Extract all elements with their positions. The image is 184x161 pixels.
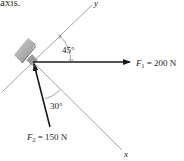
- y-axis: [2, 5, 92, 92]
- force-diagram: y x 45° 30° F1 = 200 N F2 = 150 N: [0, 0, 184, 161]
- force-f2-label: F2 = 150 N: [26, 132, 68, 143]
- force-f2-arrow: [34, 64, 50, 127]
- x-axis-label: x: [123, 149, 128, 159]
- y-axis-label: y: [93, 0, 98, 8]
- angle-30-arc: [45, 90, 60, 99]
- force-f1-label: F1 = 200 N: [135, 58, 177, 69]
- angle-45-label: 45°: [62, 45, 75, 55]
- angle-30-label: 30°: [50, 101, 63, 111]
